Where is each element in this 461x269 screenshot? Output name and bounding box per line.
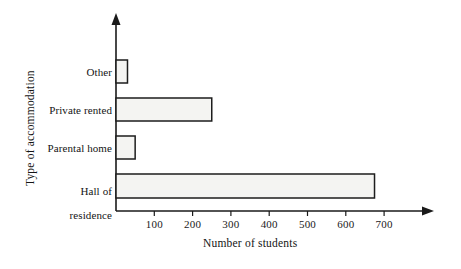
bar-chart: 100 200 300 400 500 600 700 Other Privat… <box>0 0 461 269</box>
x-tick-label-500: 500 <box>288 218 328 230</box>
x-tick-label-200: 200 <box>173 218 213 230</box>
y-axis-title: Type of accommodation <box>24 70 36 186</box>
category-label-hall-line-1: Hall of <box>80 185 112 197</box>
category-label-hall-line-2: residence <box>70 209 112 221</box>
bar-hall-of-residence[interactable] <box>116 174 375 198</box>
x-tick-label-300: 300 <box>211 218 251 230</box>
bar-other[interactable] <box>116 60 127 83</box>
x-tick-label-700: 700 <box>364 218 404 230</box>
bars-group <box>116 60 375 198</box>
bar-private-rented[interactable] <box>116 98 212 121</box>
x-axis-arrow-icon <box>422 207 434 216</box>
x-tick-label-100: 100 <box>134 218 174 230</box>
x-axis-title: Number of students <box>203 237 297 249</box>
y-axis-arrow-icon <box>112 13 121 25</box>
x-tick-label-600: 600 <box>326 218 366 230</box>
x-tick-label-400: 400 <box>249 218 289 230</box>
bar-parental-home[interactable] <box>116 136 135 159</box>
